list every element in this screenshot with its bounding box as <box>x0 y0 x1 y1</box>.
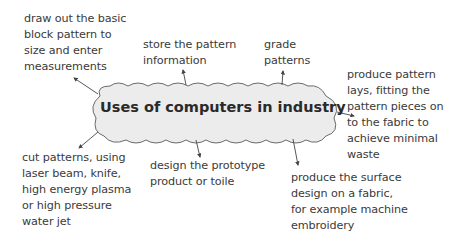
node-line: water jet <box>22 214 131 230</box>
node-cut-patterns: cut patterns, using laser beam, knife, h… <box>22 150 131 230</box>
node-line: size and enter <box>24 43 126 59</box>
node-line: achieve minimal <box>347 131 443 147</box>
node-store-pattern: store the pattern information <box>143 37 236 69</box>
node-line: design on a fabric, <box>291 186 408 202</box>
node-line: laser beam, knife, <box>22 166 131 182</box>
node-line: lays, fitting the <box>347 83 443 99</box>
node-line: to the fabric to <box>347 115 443 131</box>
arrow-to-store <box>183 70 186 85</box>
node-line: waste <box>347 147 443 163</box>
node-pattern-lays: produce pattern lays, fitting the patter… <box>347 67 443 163</box>
node-line: produce the surface <box>291 170 408 186</box>
node-line: draw out the basic <box>24 11 126 27</box>
node-line: store the pattern <box>143 37 236 53</box>
node-line: measurements <box>24 59 126 75</box>
node-line: design the prototype <box>150 158 265 174</box>
node-grade-patterns: grade patterns <box>264 37 310 69</box>
node-line: information <box>143 53 236 69</box>
central-topic: Uses of computers in industry <box>100 99 340 115</box>
node-line: or high pressure <box>22 198 131 214</box>
node-line: produce pattern <box>347 67 443 83</box>
node-design-prototype: design the prototype product or toile <box>150 158 265 190</box>
node-line: block pattern to <box>24 27 126 43</box>
node-line: cut patterns, using <box>22 150 131 166</box>
node-line: embroidery <box>291 218 408 234</box>
arrow-to-draw <box>74 78 98 94</box>
arrow-to-grade <box>282 71 283 85</box>
node-line: pattern pieces on <box>347 99 443 115</box>
node-line: grade <box>264 37 310 53</box>
node-surface-design: produce the surface design on a fabric, … <box>291 170 408 234</box>
mind-map-diagram: Uses of computers in industry draw out t… <box>0 0 459 247</box>
node-draw-pattern: draw out the basic block pattern to size… <box>24 11 126 75</box>
node-line: high energy plasma <box>22 182 131 198</box>
node-line: patterns <box>264 53 310 69</box>
arrow-to-cut <box>79 132 98 148</box>
node-line: product or toile <box>150 174 265 190</box>
node-line: for example machine <box>291 202 408 218</box>
